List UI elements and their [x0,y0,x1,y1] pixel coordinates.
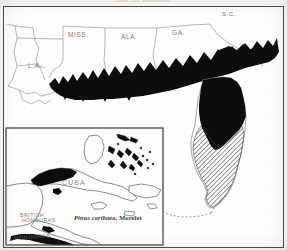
species-caption: Pinus caribaea, Morelet [74,214,142,221]
figure-page: and the Bahamas [0,0,287,250]
label-south-carolina: S.C. [222,11,236,17]
label-british-honduras-line2: HONDURAS [22,217,56,223]
label-georgia: GA. [172,29,185,36]
label-cuba: CUBA [62,179,86,186]
top-caption-partial: and the Bahamas [0,0,287,3]
species-authority: Morelet [119,214,142,221]
distribution-map [5,8,282,246]
label-louisiana: L.A. [28,62,42,69]
label-mississippi: MISS. [68,31,89,38]
label-alabama: ALA. [121,33,138,40]
species-name: Pinus caribaea, [74,214,117,221]
